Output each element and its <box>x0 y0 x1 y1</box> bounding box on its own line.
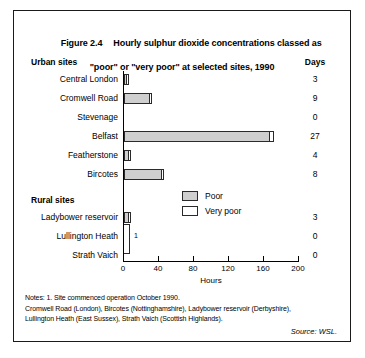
site-label: Bircotes <box>22 169 118 179</box>
site-label: Strath Vaich <box>22 250 118 260</box>
column-header-rural-sites: Rural sites <box>31 195 74 205</box>
bar-segment-very-poor <box>149 93 152 104</box>
bar-segment-very-poor <box>269 131 273 142</box>
chart-row: Strath Vaich0 <box>14 247 352 266</box>
figure-title-line-1: Hourly sulphur dioxide concentrations cl… <box>113 38 321 48</box>
note-line-3: Lullington Heath (East Sussex), Strath V… <box>25 314 341 325</box>
chart-plot-area: Urban sites Days Rural sites 04080120160… <box>14 57 352 285</box>
chart-row: Stevenage0 <box>14 109 352 128</box>
x-axis-title: Hours <box>123 276 299 285</box>
site-label: Ladybower reservoir <box>22 212 118 222</box>
days-value: 3 <box>298 212 332 222</box>
days-value: 4 <box>298 150 332 160</box>
figure-number: Figure 2.4 <box>61 37 103 49</box>
zero-value-footnote-marker: 1 <box>134 232 138 239</box>
chart-row: Featherstone4 <box>14 147 352 166</box>
bar-segment-poor <box>124 169 161 180</box>
days-value: 3 <box>298 74 332 84</box>
figure-source: Source: WSL. <box>25 327 341 336</box>
column-header-urban-sites: Urban sites <box>31 57 77 67</box>
days-value: 0 <box>298 231 332 241</box>
bar-segment-poor <box>124 131 269 142</box>
column-header-days: Days <box>298 57 332 67</box>
site-label: Featherstone <box>22 150 118 160</box>
chart-row: Lullington Heath0 <box>14 228 352 247</box>
figure-frame: Figure 2.4Hourly sulphur dioxide concent… <box>13 10 351 342</box>
stacked-bar <box>124 150 131 161</box>
note-line-1: Notes: 1. Site commenced operation Octob… <box>25 293 341 304</box>
site-label: Stevenage <box>22 112 118 122</box>
legend-swatch-very-poor-icon <box>182 206 198 216</box>
chart-row: Cromwell Road9 <box>14 90 352 109</box>
legend-label-very-poor: Very poor <box>205 206 241 216</box>
legend-item-very-poor: Very poor <box>182 204 272 217</box>
bar-segment-very-poor <box>128 150 131 161</box>
site-label: Central London <box>22 74 118 84</box>
stacked-bar <box>124 131 274 142</box>
legend-swatch-poor-icon <box>182 191 198 201</box>
bar-segment-very-poor <box>128 212 131 223</box>
chart-row: Bircotes8 <box>14 166 352 185</box>
site-label: Cromwell Road <box>22 93 118 103</box>
chart-row: Belfast27 <box>14 128 352 147</box>
stacked-bar <box>124 169 164 180</box>
site-label: Lullington Heath <box>22 231 118 241</box>
chart-legend: Poor Very poor <box>182 189 272 219</box>
days-value: 9 <box>298 93 332 103</box>
legend-label-poor: Poor <box>205 191 223 201</box>
stacked-bar <box>124 74 129 85</box>
note-line-2: Cromwell Road (London), Bircotes (Nottin… <box>25 304 341 315</box>
bar-segment-very-poor <box>126 74 129 85</box>
days-value: 0 <box>298 250 332 260</box>
chart-row: Central London3 <box>14 71 352 90</box>
days-value: 0 <box>298 112 332 122</box>
days-value: 8 <box>298 169 332 179</box>
zero-value-bracket-icon <box>124 224 130 254</box>
days-value: 27 <box>298 131 332 141</box>
figure-notes: Notes: 1. Site commenced operation Octob… <box>25 293 341 336</box>
site-label: Belfast <box>22 131 118 141</box>
bar-segment-very-poor <box>161 169 164 180</box>
legend-item-poor: Poor <box>182 189 272 202</box>
stacked-bar <box>124 93 152 104</box>
bar-segment-poor <box>124 93 149 104</box>
stacked-bar <box>124 212 131 223</box>
